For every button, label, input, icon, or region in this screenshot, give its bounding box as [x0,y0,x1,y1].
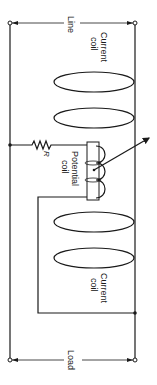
line-label: Line [66,16,76,33]
current-coil-top-turn-2 [54,108,134,128]
current-coil-bottom-label-1: Current [99,273,109,304]
current-coil-top-turn-1 [54,72,134,92]
line-terminal-right [133,21,137,25]
line-terminal-left [8,21,12,25]
junction-right-bottom [133,311,137,315]
line-arrowhead-left [12,21,18,25]
load-terminals: Load [8,350,137,370]
potential-coil-label-2: coil [60,160,70,174]
potential-coil: Potential coil [60,142,105,200]
potential-coil-core [87,142,99,200]
current-coil-bottom-label-2: coil [89,278,99,292]
load-label: Load [66,350,76,370]
current-coil-bottom-turn-2 [54,248,134,268]
current-coil-bottom-turn-1 [54,212,134,232]
potential-coil-label-1: Potential [70,151,80,186]
line-terminals: Line [8,16,137,33]
wattmeter-circuit-diagram: Line Current coil R Potential coil Curre… [0,0,157,385]
load-terminal-right [133,358,137,362]
load-arrowhead-right [127,358,133,362]
current-coil-top-label-2: coil [89,37,99,51]
load-arrowhead-left [12,358,18,362]
resistor-label: R [42,151,51,157]
current-coil-top-label-1: Current [99,32,109,63]
resistor [10,141,87,149]
load-terminal-left [8,358,12,362]
line-arrowhead-right [127,21,133,25]
pointer-arrow [94,138,149,170]
potential-coil-loops [96,146,105,198]
